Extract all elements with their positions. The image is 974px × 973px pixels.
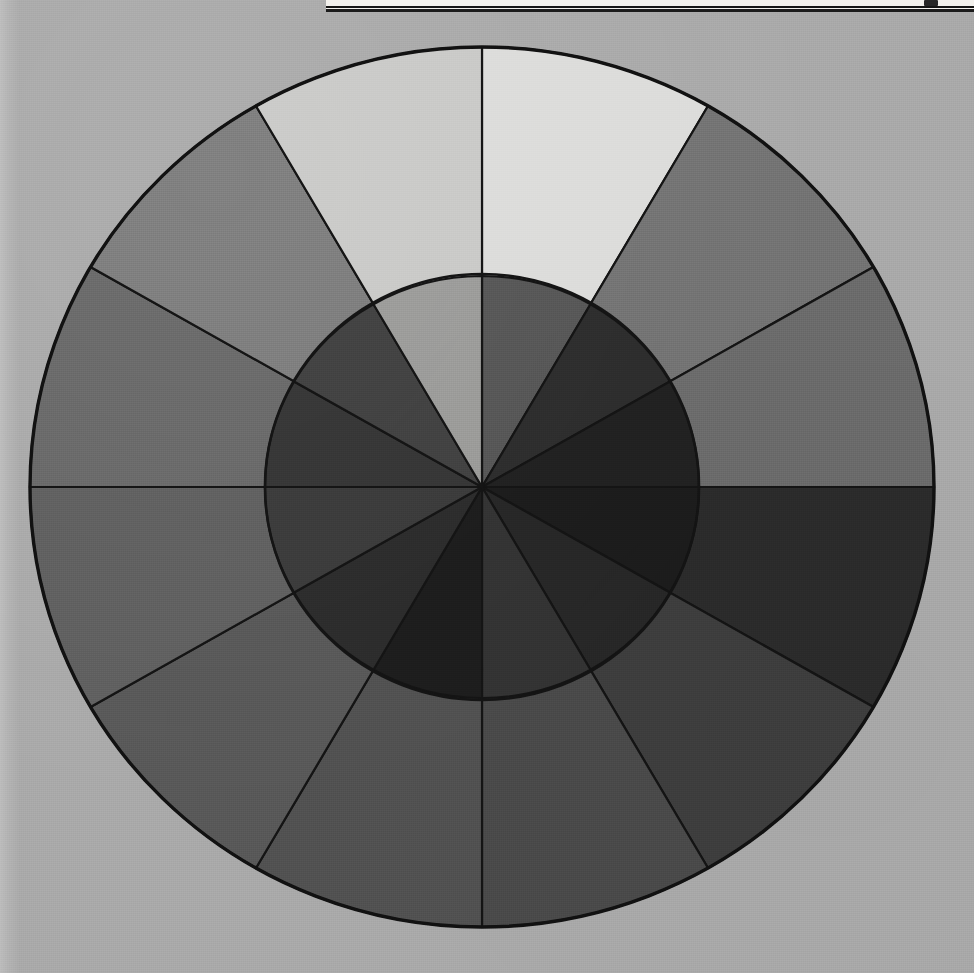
inner-disk	[265, 276, 699, 698]
colour-wheel-figure	[0, 0, 974, 973]
figure-page	[0, 0, 974, 973]
colour-wheel-svg	[0, 0, 974, 973]
